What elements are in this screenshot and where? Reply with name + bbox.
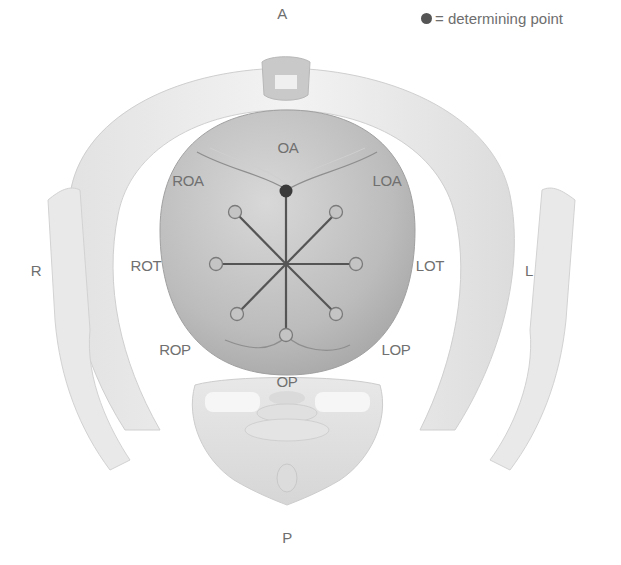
label-oa: OA <box>277 140 298 155</box>
marker-lop <box>330 308 343 321</box>
sacrum <box>192 378 382 506</box>
label-rot: ROT <box>131 258 162 273</box>
label-lot: LOT <box>416 258 444 273</box>
label-posterior: P <box>282 530 292 545</box>
marker-rop <box>231 308 244 321</box>
legend: = determining point <box>421 10 563 27</box>
pelvis-illustration <box>0 0 621 565</box>
marker-rot <box>210 258 223 271</box>
label-rop: ROP <box>159 342 191 357</box>
marker-loa <box>330 206 343 219</box>
marker-roa <box>229 206 242 219</box>
label-anterior: A <box>277 6 287 21</box>
label-op: OP <box>276 374 297 389</box>
marker-lot <box>350 258 363 271</box>
label-right: R <box>31 263 42 278</box>
label-left: L <box>525 263 533 278</box>
label-loa: LOA <box>372 173 401 188</box>
determining-point-marker <box>280 185 293 198</box>
marker-op <box>280 329 293 342</box>
label-roa: ROA <box>172 173 204 188</box>
label-lop: LOP <box>381 342 410 357</box>
pelvis-diagram: A P R L OA ROA LOA ROT LOT ROP LOP OP = … <box>0 0 621 565</box>
legend-text: = determining point <box>435 10 563 27</box>
determining-point-legend-icon <box>421 13 432 24</box>
